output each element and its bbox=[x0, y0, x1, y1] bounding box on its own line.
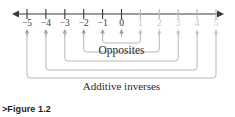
opposites-label: Opposites bbox=[99, 45, 145, 57]
tick-label-minus5: −5 bbox=[22, 19, 32, 29]
tick-label-5: 5 bbox=[214, 19, 219, 29]
tick-label-minus4: −4 bbox=[41, 19, 51, 29]
tick-label-2: 2 bbox=[157, 19, 162, 29]
axis-arrow-left-icon bbox=[12, 11, 19, 18]
caption-text: Figure 1.2 bbox=[7, 104, 51, 114]
tick-label-minus2: −2 bbox=[79, 19, 89, 29]
tick-label-0: 0 bbox=[119, 19, 124, 29]
tick-label-minus1: −1 bbox=[98, 19, 108, 29]
axis-arrow-right-icon bbox=[217, 11, 224, 18]
tick-label-1: 1 bbox=[138, 19, 143, 29]
additive-inverses-label: Additive inverses bbox=[83, 81, 160, 92]
tick-label-minus3: −3 bbox=[60, 19, 70, 29]
tick-arrowheads-group bbox=[25, 29, 218, 37]
figure-caption: >Figure 1.2 bbox=[2, 104, 51, 114]
number-line-axis bbox=[12, 11, 224, 18]
tick-arrow-head-icon bbox=[119, 29, 123, 33]
figure-1-2: −5−4−3−2−1012345 Opposites Additive inve… bbox=[0, 0, 235, 117]
tick-label-3: 3 bbox=[176, 19, 181, 29]
tick-label-4: 4 bbox=[195, 19, 200, 29]
